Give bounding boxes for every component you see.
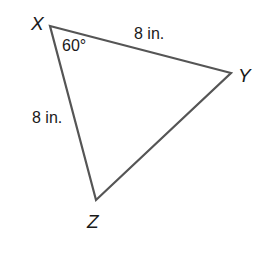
side-xy-label: 8 in.	[134, 25, 164, 42]
vertex-label-y: Y	[238, 65, 252, 86]
angle-x-label: 60°	[62, 37, 86, 54]
vertex-label-z: Z	[86, 211, 100, 232]
side-xz-label: 8 in.	[32, 109, 62, 126]
triangle-diagram: X Y Z 60° 8 in. 8 in.	[0, 0, 267, 254]
vertex-label-x: X	[30, 13, 45, 34]
